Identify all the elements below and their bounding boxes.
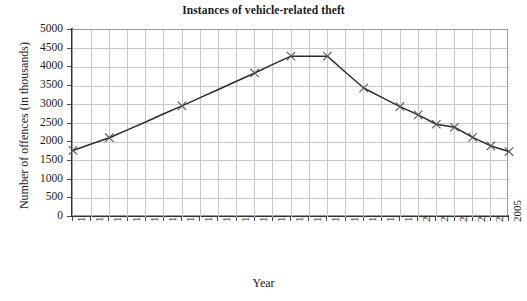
data-point-marker (468, 133, 476, 141)
data-point-marker (105, 134, 113, 142)
chart-container: Instances of vehicle-related theft Numbe… (0, 0, 527, 301)
data-point-marker (396, 102, 404, 110)
data-point-marker (250, 69, 258, 77)
x-tick-label: 2005 (512, 200, 523, 222)
data-point-marker (178, 102, 186, 110)
data-point-marker (487, 142, 495, 150)
data-series-line (73, 30, 509, 217)
data-point-marker (414, 111, 422, 119)
data-point-marker (359, 84, 367, 92)
plot-area (72, 29, 508, 216)
